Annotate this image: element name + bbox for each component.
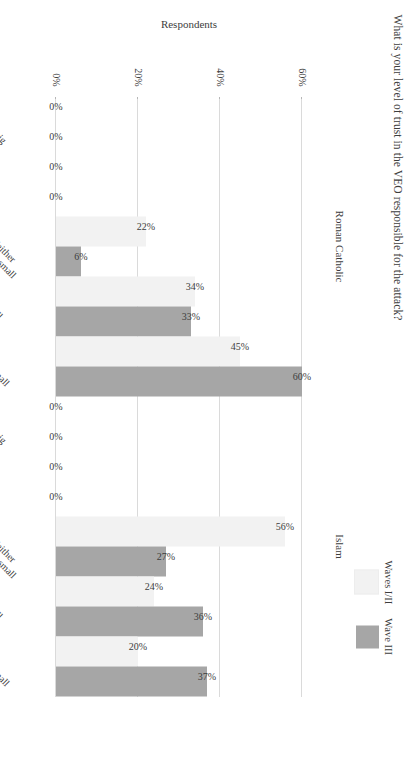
bar-value-label: 33%: [182, 310, 200, 321]
category-tick: Big: [0, 456, 1, 516]
bar-pair: 24%36%: [56, 576, 322, 636]
category-tick: Neither big nor small: [0, 216, 11, 276]
plot-area: 0%0%0%0%22%6%34%33%45%60%0%0%0%0%56%27%2…: [56, 96, 322, 696]
bar-category: 34%33%: [56, 276, 322, 336]
bar-pair: 22%6%: [56, 216, 322, 276]
bar-category: 0%0%: [56, 396, 322, 456]
bar-value-label: 36%: [194, 610, 212, 621]
value-axis-tick: 60%: [296, 68, 307, 86]
bar-value-label: 27%: [157, 550, 175, 561]
bar[interactable]: 27%: [56, 546, 166, 576]
value-axis: 0%20%40%60%: [56, 40, 322, 92]
legend-item: Wave III: [356, 618, 394, 655]
legend-item-label: Waves I/II: [383, 560, 394, 604]
group-title: Roman Catholic: [334, 96, 346, 396]
bar-value-label: 60%: [292, 370, 310, 381]
bar-value-label: 45%: [231, 340, 249, 351]
category-tick-label: Very small: [0, 351, 12, 389]
bar-group: 0%0%0%0%56%27%24%36%20%37%: [56, 396, 322, 696]
chart-title: What is your level of trust in the VEO r…: [392, 14, 404, 320]
bar[interactable]: 45%: [56, 336, 240, 366]
bar-category: 0%0%: [56, 156, 322, 216]
rotated-figure-wrapper: What is your level of trust in the VEO r…: [0, 0, 418, 777]
bar-chart-figure: What is your level of trust in the VEO r…: [0, 0, 418, 777]
bar-pair: 0%0%: [56, 96, 322, 156]
category-tick-label: Neither big nor small: [0, 527, 26, 579]
category-tick: Very big: [0, 396, 1, 456]
bar-category: 45%60%: [56, 336, 322, 396]
bar[interactable]: 34%: [56, 276, 195, 306]
bar-group: 0%0%0%0%22%6%34%33%45%60%: [56, 96, 322, 396]
bar-value-label: 24%: [145, 580, 163, 591]
bar-groups: 0%0%0%0%22%6%34%33%45%60%0%0%0%0%56%27%2…: [56, 96, 322, 696]
category-tick: Very small: [0, 336, 1, 396]
value-axis-tick: 40%: [214, 68, 225, 86]
value-axis-tick: 20%: [132, 68, 143, 86]
bar-value-label: 22%: [137, 220, 155, 231]
bar[interactable]: 36%: [56, 606, 203, 636]
bar-category: 56%27%: [56, 516, 322, 576]
category-axis-group: Very bigBigNeither big nor smallSmallVer…: [0, 396, 56, 696]
bar-category: 22%6%: [56, 216, 322, 276]
category-tick-label: Small: [0, 298, 5, 322]
bar-value-label: 20%: [129, 640, 147, 651]
bar-category: 24%36%: [56, 576, 322, 636]
group-title: Islam: [334, 396, 346, 696]
category-tick-label: Big: [0, 181, 2, 199]
bar-pair: 0%0%: [56, 396, 322, 456]
value-axis-title: Respondents: [56, 14, 322, 32]
bar-value-label: 56%: [276, 520, 294, 531]
group-title-row: Roman CatholicIslam: [334, 96, 346, 696]
category-tick: Small: [0, 576, 1, 636]
category-tick-label: Neither big nor small: [0, 227, 26, 279]
bar[interactable]: 60%: [56, 366, 302, 396]
category-tick-label: Very big: [0, 414, 9, 446]
legend-swatch: [354, 569, 379, 594]
bar-pair: 34%33%: [56, 276, 322, 336]
category-tick: Very small: [0, 636, 1, 696]
bar-category: 20%37%: [56, 636, 322, 696]
bar-category: 0%0%: [56, 96, 322, 156]
bar[interactable]: 33%: [56, 306, 191, 336]
bar-pair: 0%0%: [56, 456, 322, 516]
bar[interactable]: 20%: [56, 636, 138, 666]
category-tick-label: Small: [0, 598, 5, 622]
legend-item: Waves I/II: [354, 560, 394, 604]
category-tick-label: Big: [0, 481, 2, 499]
bar-pair: 20%37%: [56, 636, 322, 696]
bar-value-label: 6%: [74, 250, 87, 261]
bar-value-label: 34%: [186, 280, 204, 291]
chart-legend: Waves I/IIWave III: [354, 560, 394, 655]
category-tick: Small: [0, 276, 1, 336]
bar-pair: 0%0%: [56, 156, 322, 216]
category-tick: Very big: [0, 96, 1, 156]
category-tick: Big: [0, 156, 1, 216]
category-tick-label: Very small: [0, 651, 12, 689]
category-axis-group: Very bigBigNeither big nor smallSmallVer…: [0, 96, 56, 396]
category-axis: Very bigBigNeither big nor smallSmallVer…: [0, 96, 56, 696]
category-tick: Neither big nor small: [0, 516, 11, 576]
bar[interactable]: 6%: [56, 246, 81, 276]
bar-pair: 45%60%: [56, 336, 322, 396]
bar-category: 0%0%: [56, 456, 322, 516]
bar[interactable]: 37%: [56, 666, 207, 696]
value-axis-tick: 0%: [51, 73, 62, 86]
category-tick-label: Very big: [0, 114, 9, 146]
bar[interactable]: 56%: [56, 516, 285, 546]
bar[interactable]: 24%: [56, 576, 154, 606]
bar[interactable]: 22%: [56, 216, 146, 246]
legend-swatch: [356, 625, 379, 648]
bar-pair: 56%27%: [56, 516, 322, 576]
value-axis-title-text: Respondents: [161, 17, 217, 29]
bar-value-label: 37%: [198, 670, 216, 681]
legend-item-label: Wave III: [383, 618, 394, 655]
